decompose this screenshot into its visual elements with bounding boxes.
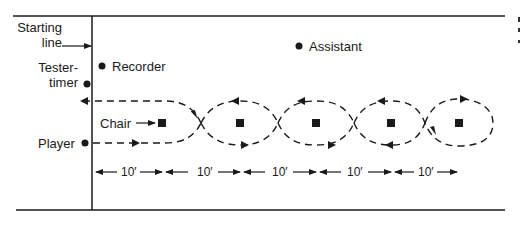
- tester-timer-label: Tester- timer: [20, 60, 78, 90]
- starting-line-label: Starting line: [10, 20, 62, 50]
- chair-2: [236, 119, 244, 127]
- chair-label: Chair: [100, 116, 131, 131]
- recorder-dot: [99, 63, 106, 70]
- chair-4: [387, 119, 395, 127]
- dimension-label-3: 10′: [271, 165, 289, 179]
- dimension-label-5: 10′: [417, 165, 435, 179]
- assistant-label: Assistant: [309, 39, 362, 54]
- dimension-label-2: 10′: [196, 165, 214, 179]
- assistant-dot: [296, 43, 303, 50]
- field-diagram: [0, 0, 523, 229]
- chair-1: [158, 119, 166, 127]
- dimension-label-4: 10′: [346, 165, 364, 179]
- player-label: Player: [38, 136, 75, 151]
- dimension-label-1: 10′: [120, 165, 138, 179]
- tester-timer-dot: [84, 81, 91, 88]
- player-dot: [82, 140, 89, 147]
- chair-5: [455, 119, 463, 127]
- chair-3: [312, 119, 320, 127]
- recorder-label: Recorder: [112, 59, 165, 74]
